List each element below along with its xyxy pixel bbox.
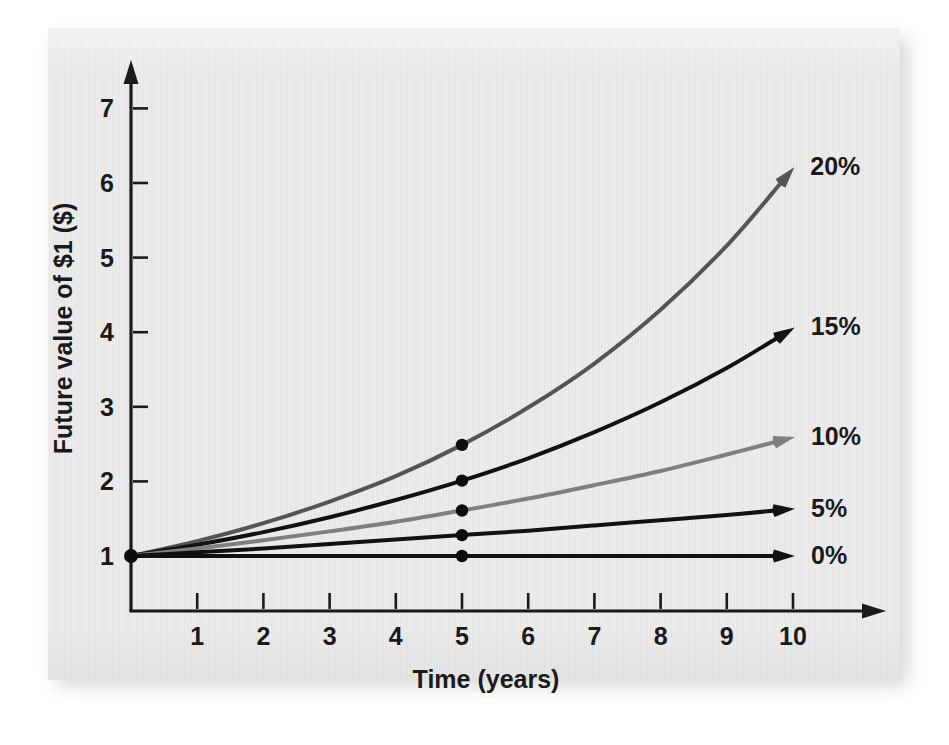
curve-layer: [131, 167, 795, 562]
value-axis-tick-label: 3: [100, 393, 114, 421]
series-label-15pct: 15%: [811, 312, 861, 340]
value-axis-tick-label: 4: [100, 318, 114, 346]
curve-arrowhead: [773, 327, 794, 343]
value-axis-tick-label: 5: [100, 244, 114, 272]
value-axis-tick-label: 6: [100, 169, 114, 197]
curve-arrowhead: [772, 550, 795, 563]
series-label-10pct: 10%: [811, 422, 861, 450]
data-point-marker: [456, 439, 468, 451]
curve-arrowhead: [773, 436, 795, 448]
value-axis-tick-label: 7: [100, 94, 114, 122]
curve-20pct: [131, 167, 794, 556]
chart-plot: 123456712345678910 20%15%10%5%0%Time (ye…: [0, 0, 949, 745]
y-axis-title: Future value of $1 ($): [49, 203, 77, 454]
data-point-marker: [456, 529, 468, 541]
data-point-marker: [456, 550, 468, 562]
time-axis-tick-label: 3: [323, 622, 337, 650]
time-axis-tick-label: 2: [256, 622, 270, 650]
value-axis-tick-label: 1: [100, 542, 114, 570]
curve-arrowhead: [772, 504, 795, 517]
curve-line: [131, 180, 783, 556]
series-label-20pct: 20%: [810, 152, 860, 180]
time-axis-tick-label: 8: [654, 622, 668, 650]
x-axis-title: Time (years): [413, 665, 560, 693]
data-point-marker: [456, 474, 468, 486]
value-axis-arrowhead: [124, 60, 139, 84]
time-axis-tick-label: 9: [720, 622, 734, 650]
series-label-0pct: 0%: [811, 541, 847, 569]
data-point-marker: [456, 504, 468, 516]
time-axis-tick-label: 5: [455, 622, 469, 650]
figure-root: 123456712345678910 20%15%10%5%0%Time (ye…: [0, 0, 949, 745]
series-label-5pct: 5%: [811, 494, 847, 522]
time-axis-tick-label: 10: [779, 622, 807, 650]
axis-layer: 123456712345678910: [100, 60, 886, 650]
time-axis-tick-label: 7: [587, 622, 601, 650]
time-axis-tick-label: 4: [389, 622, 403, 650]
value-axis-tick-label: 2: [100, 467, 114, 495]
time-axis-tick-label: 6: [521, 622, 535, 650]
time-axis-tick-label: 1: [190, 622, 204, 650]
time-axis-arrowhead: [862, 604, 886, 619]
origin-point-marker: [124, 549, 138, 563]
